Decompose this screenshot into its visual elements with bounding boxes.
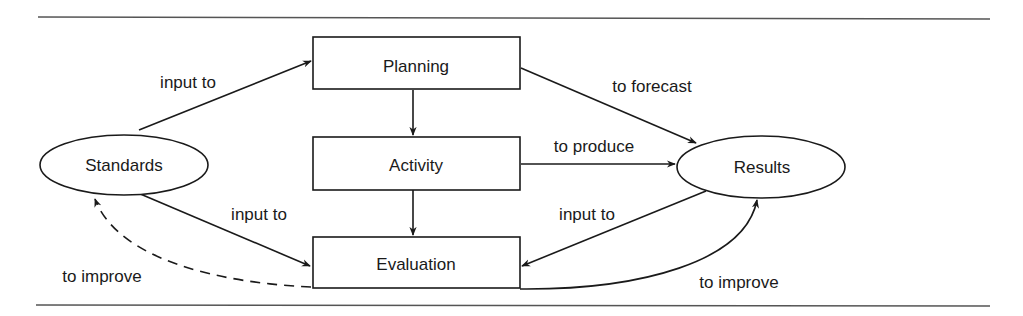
label-planning-to-results: to forecast	[612, 77, 692, 96]
node-standards: Standards	[40, 135, 208, 195]
label-evaluation-to-standards: to improve	[62, 267, 141, 286]
label-results-to-evaluation: input to	[559, 205, 615, 224]
label-standards-to-planning: input to	[160, 73, 216, 92]
node-results: Results	[677, 136, 845, 198]
node-label-planning: Planning	[383, 57, 449, 76]
diagram-canvas: Standards Planning Activity Evaluation R…	[0, 0, 1023, 316]
node-evaluation: Evaluation	[313, 237, 520, 288]
node-label-evaluation: Evaluation	[376, 255, 455, 274]
edge-standards-to-planning	[139, 61, 311, 130]
label-standards-to-evaluation: input to	[231, 205, 287, 224]
bottom-rule	[36, 305, 990, 306]
node-label-activity: Activity	[389, 156, 443, 175]
node-activity: Activity	[313, 137, 520, 190]
edge-results-to-evaluation	[522, 191, 706, 266]
node-label-standards: Standards	[85, 156, 163, 175]
top-rule	[38, 17, 990, 19]
edge-standards-to-evaluation	[138, 193, 310, 266]
label-evaluation-to-results: to improve	[699, 273, 778, 292]
node-planning: Planning	[313, 37, 520, 89]
node-label-results: Results	[734, 158, 791, 177]
label-activity-to-results: to produce	[554, 137, 634, 156]
